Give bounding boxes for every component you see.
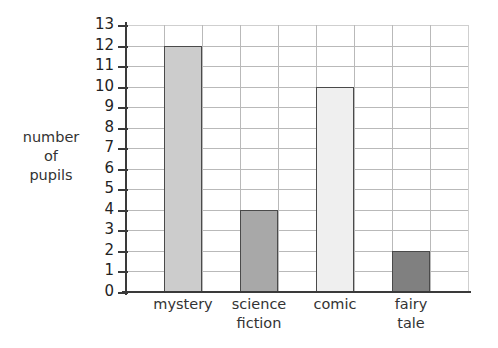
y-tick-mark-10 [118,87,128,89]
bar-fairy-tale[interactable] [392,251,430,292]
y-tick-label-1: 1 [86,263,114,278]
bar-comic[interactable] [316,87,354,292]
y-tick-mark-4 [118,210,128,212]
y-axis-tick-labels: 012345678910111213 [86,0,114,348]
gridline-x-8 [430,25,431,292]
y-axis-line [125,22,127,295]
gridline-x-2 [202,25,203,292]
gridline-y-13 [126,25,468,26]
x-label-fairy-tale: fairytale [354,295,468,333]
gridline-x-9 [468,25,469,292]
y-tick-label-4: 4 [86,202,114,217]
y-tick-mark-6 [118,169,128,171]
y-tick-label-7: 7 [86,140,114,155]
y-tick-mark-8 [118,128,128,130]
y-tick-label-6: 6 [86,161,114,176]
bar-science-fiction[interactable] [240,210,278,292]
y-axis-title: number of pupils [8,128,94,185]
y-tick-mark-11 [118,66,128,68]
y-tick-mark-12 [118,46,128,48]
y-tick-mark-7 [118,148,128,150]
y-tick-mark-13 [118,25,128,27]
y-axis-title-line-2: of [8,147,94,166]
y-tick-mark-3 [118,230,128,232]
bar-chart-figure: number of pupils 012345678910111213 myst… [0,0,498,348]
y-tick-mark-9 [118,107,128,109]
y-tick-label-12: 12 [86,38,114,53]
y-axis-title-line-3: pupils [8,166,94,185]
y-tick-label-5: 5 [86,181,114,196]
y-tick-mark-2 [118,251,128,253]
gridline-x-6 [354,25,355,292]
x-label-line-2: tale [354,314,468,333]
gridline-x-4 [278,25,279,292]
y-tick-label-0: 0 [86,284,114,299]
y-tick-label-9: 9 [86,99,114,114]
x-axis-category-labels: mysterysciencefictioncomicfairytale [126,295,468,347]
y-tick-label-10: 10 [86,79,114,94]
plot-area [126,25,468,292]
y-tick-mark-0 [118,292,128,294]
y-tick-label-8: 8 [86,120,114,135]
x-axis-line [122,291,471,293]
x-label-line-1: fairy [354,295,468,314]
y-tick-mark-5 [118,189,128,191]
y-tick-label-11: 11 [86,58,114,73]
y-tick-mark-1 [118,271,128,273]
y-axis-title-line-1: number [8,128,94,147]
bar-mystery[interactable] [164,46,202,292]
y-tick-label-3: 3 [86,222,114,237]
y-tick-label-13: 13 [86,17,114,32]
x-label-line-2: fiction [202,314,316,333]
y-tick-label-2: 2 [86,243,114,258]
